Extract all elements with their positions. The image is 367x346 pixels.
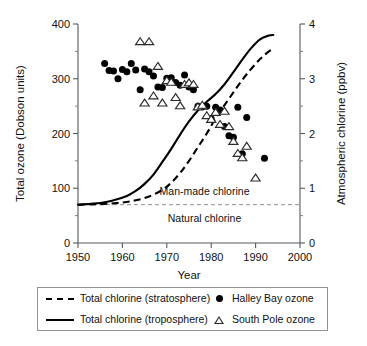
- data-point-halley-bay: [261, 155, 268, 162]
- data-point-halley-bay: [128, 60, 135, 67]
- data-point-south-pole: [153, 62, 162, 69]
- legend-label: South Pole ozone: [232, 314, 315, 325]
- data-point-halley-bay: [101, 60, 108, 67]
- axis-spines-left-bottom: [78, 24, 300, 243]
- data-point-halley-bay: [110, 68, 117, 75]
- xtick-label-2000: 2000: [288, 251, 312, 263]
- xtick-label-1990: 1990: [243, 251, 267, 263]
- dashed-line-icon: [46, 294, 74, 304]
- xtick-label-1960: 1960: [110, 251, 134, 263]
- ozone-chlorine-figure: 0100200300400012341950196019701980199020…: [0, 0, 367, 346]
- xtick-label-1950: 1950: [66, 251, 90, 263]
- legend-label: Halley Bay ozone: [232, 293, 314, 304]
- data-point-halley-bay: [159, 84, 166, 91]
- data-point-halley-bay: [243, 114, 250, 121]
- data-point-halley-bay: [123, 68, 130, 75]
- data-point-halley-bay: [114, 75, 121, 82]
- ytick-label-right-2: 2: [309, 128, 315, 140]
- annotation-0: Man-made chlorine: [160, 185, 250, 197]
- data-point-south-pole: [171, 94, 180, 101]
- legend-item-total-chlorine-stratosphere: Total chlorine (stratosphere): [46, 293, 212, 304]
- ytick-label-left-100: 100: [52, 182, 70, 194]
- series-points-halley-bay-ozone: [101, 60, 268, 162]
- ytick-label-right-0: 0: [309, 237, 315, 249]
- data-point-south-pole: [140, 99, 149, 106]
- data-point-south-pole: [144, 38, 153, 45]
- ytick-label-left-0: 0: [64, 237, 70, 249]
- ytick-label-left-400: 400: [52, 18, 70, 30]
- ytick-label-left-200: 200: [52, 128, 70, 140]
- y-axis-title-left: Total ozone (Dobson units): [14, 65, 26, 202]
- data-point-south-pole: [158, 99, 167, 106]
- solid-line-icon: [46, 315, 74, 325]
- data-point-south-pole: [149, 92, 158, 99]
- data-point-south-pole: [176, 102, 185, 109]
- xtick-label-1980: 1980: [199, 251, 223, 263]
- chart-legend: Total chlorine (stratosphere) Halley Bay…: [37, 287, 328, 331]
- filled-circle-icon: [212, 293, 226, 305]
- y-axis-title-right: Atmospheric chlorine (ppbv): [335, 62, 347, 205]
- legend-label: Total chlorine (troposphere): [80, 314, 208, 325]
- xtick-label-1970: 1970: [155, 251, 179, 263]
- data-point-halley-bay: [234, 104, 241, 111]
- data-point-south-pole: [242, 142, 251, 149]
- data-point-halley-bay: [137, 86, 144, 93]
- data-point-halley-bay: [132, 66, 139, 73]
- ytick-label-right-1: 1: [309, 182, 315, 194]
- ytick-label-right-4: 4: [309, 18, 315, 30]
- open-triangle-icon: [212, 314, 226, 326]
- legend-label: Total chlorine (stratosphere): [80, 293, 210, 304]
- ytick-label-right-3: 3: [309, 73, 315, 85]
- data-point-south-pole: [251, 174, 260, 181]
- legend-item-total-chlorine-troposphere: Total chlorine (troposphere): [46, 314, 212, 325]
- x-axis-title: Year: [177, 269, 200, 281]
- annotation-1: Natural chlorine: [168, 212, 242, 224]
- data-point-halley-bay: [181, 71, 188, 78]
- ytick-label-left-300: 300: [52, 73, 70, 85]
- data-point-halley-bay: [150, 73, 157, 80]
- legend-item-halley-bay-ozone: Halley Bay ozone: [212, 293, 319, 305]
- data-point-south-pole: [136, 38, 145, 45]
- legend-item-south-pole-ozone: South Pole ozone: [212, 314, 319, 326]
